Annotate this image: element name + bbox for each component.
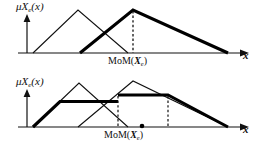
thick-clipped-left-bottom [33, 102, 118, 128]
x-axis-label-top: x [243, 50, 249, 61]
thin-triangle-membership-top [33, 10, 128, 53]
mom-annotation-top: MoM(Xe) [108, 56, 147, 68]
y-axis-top [24, 14, 31, 53]
x-axis-label-bottom: x [243, 124, 249, 135]
chart-panel-bottom: μXe(x) x MoM(Xe) [0, 74, 260, 149]
y-axis-label-bottom: μXe(x) [16, 76, 44, 89]
y-axis-bottom [24, 89, 31, 127]
mom-close-paren-bottom: ) [140, 129, 143, 140]
mom-annotation-bottom: MoM(Xe) [104, 130, 143, 142]
y-axis-label-arg-bottom: (x) [31, 75, 43, 87]
y-axis-label-arg-top: (x) [31, 0, 43, 12]
y-axis-label-top: μXe(x) [16, 1, 44, 14]
mom-point-marker-bottom [140, 124, 145, 129]
mom-close-paren-top: ) [144, 55, 147, 66]
chart-panel-top: μXe(x) x MoM(Xe) [0, 0, 260, 75]
mom-variable-bottom: X [130, 129, 137, 140]
figure-container: μXe(x) x MoM(Xe) [0, 0, 260, 149]
mom-variable-top: X [134, 55, 141, 66]
thin-triangle-right-bottom [78, 81, 228, 127]
thin-triangle-left-bottom [33, 83, 128, 127]
